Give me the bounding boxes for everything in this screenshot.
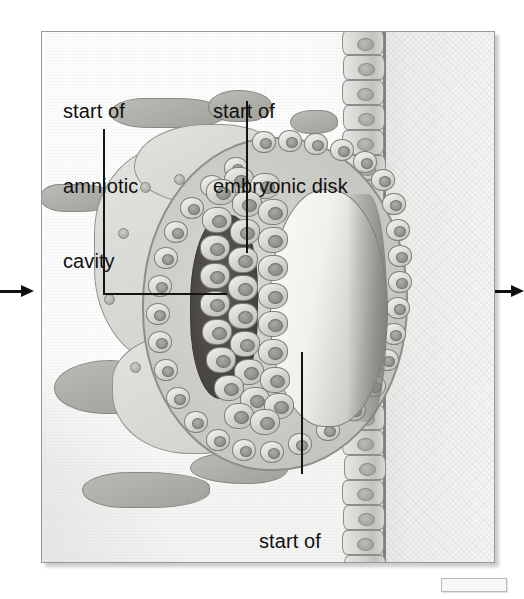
disk-cell bbox=[228, 275, 258, 301]
right-arrow-shaft bbox=[495, 290, 512, 293]
cytotrophoblast-cell bbox=[154, 359, 178, 381]
disk-cell bbox=[250, 409, 280, 435]
label-amniotic-cavity: start of amniotic cavity bbox=[63, 49, 138, 324]
cytotrophoblast-cell bbox=[164, 221, 188, 243]
disk-cell bbox=[258, 339, 288, 365]
cytotrophoblast-cell bbox=[148, 331, 172, 353]
left-arrow-head bbox=[21, 285, 34, 297]
label-amniotic-cavity-line3: cavity bbox=[63, 249, 138, 274]
right-arrow bbox=[495, 285, 524, 297]
illustration-panel: start of amniotic cavity start of embryo… bbox=[41, 31, 495, 563]
yolk-sac-shading bbox=[347, 194, 387, 422]
disk-cell bbox=[258, 255, 288, 281]
left-arrow-shaft bbox=[0, 290, 22, 293]
disk-cell bbox=[200, 263, 230, 289]
label-embryonic-disk-line2: embryonic disk bbox=[213, 174, 348, 199]
cytotrophoblast-cell bbox=[371, 169, 395, 191]
disk-cell bbox=[206, 347, 236, 373]
epithelial-cell bbox=[343, 55, 385, 80]
disk-cell bbox=[228, 303, 258, 329]
disk-cell bbox=[202, 319, 232, 345]
maternal-lacuna bbox=[82, 472, 210, 508]
cytotrophoblast-cell bbox=[288, 433, 312, 455]
epithelial-cell bbox=[342, 80, 384, 105]
yolk-sac-leader bbox=[301, 352, 303, 474]
epithelial-cell bbox=[344, 555, 386, 563]
cytotrophoblast-cell bbox=[382, 193, 406, 215]
label-amniotic-cavity-line2: amniotic bbox=[63, 174, 138, 199]
disk-cell bbox=[228, 247, 258, 273]
cytotrophoblast-cell bbox=[353, 151, 377, 173]
epithelial-cell bbox=[342, 31, 384, 55]
label-embryonic-disk-line1: start of bbox=[213, 99, 348, 124]
right-arrow-head bbox=[511, 285, 524, 297]
cytotrophoblast-cell bbox=[260, 441, 284, 463]
cytotrophoblast-cell bbox=[386, 297, 410, 319]
epithelial-cell bbox=[342, 530, 384, 555]
cytotrophoblast-cell bbox=[166, 387, 190, 409]
disk-cell bbox=[258, 283, 288, 309]
cytotrophoblast-cell bbox=[388, 271, 412, 293]
label-yolk-sac: start of yolk sac bbox=[259, 479, 332, 563]
label-embryonic-disk: start of embryonic disk bbox=[213, 49, 348, 249]
disk-cell bbox=[258, 311, 288, 337]
scale-bar bbox=[441, 578, 507, 592]
epithelial-cell bbox=[342, 480, 384, 505]
epithelial-cell bbox=[343, 505, 385, 530]
figure-stage: start of amniotic cavity start of embryo… bbox=[0, 0, 524, 599]
cytotrophoblast-cell bbox=[388, 245, 412, 267]
cytotrophoblast-cell bbox=[146, 303, 170, 325]
label-amniotic-cavity-line1: start of bbox=[63, 99, 138, 124]
cytotrophoblast-cell bbox=[386, 219, 410, 241]
left-arrow bbox=[0, 285, 34, 297]
cytotrophoblast-cell bbox=[154, 247, 178, 269]
label-yolk-sac-line1: start of bbox=[259, 529, 332, 554]
cytotrophoblast-cell bbox=[232, 439, 256, 461]
trophoblast-nucleus bbox=[130, 362, 141, 373]
epithelial-cell bbox=[343, 105, 385, 130]
